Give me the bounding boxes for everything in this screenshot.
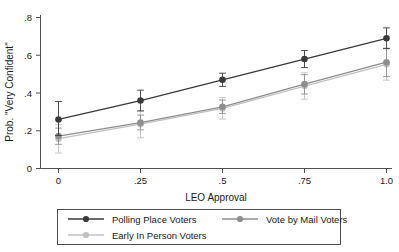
legend-label-early-in-person-voters: Early In Person Voters <box>112 230 207 241</box>
y-tick-marks <box>36 18 41 169</box>
x-tick-label-1: .25 <box>134 175 147 186</box>
y-tick-label-0: 0 <box>27 163 32 174</box>
data-point-vote-by-mail-voters-3 <box>301 81 308 88</box>
legend-entry-polling-place-voters[interactable]: Polling Place Voters <box>68 214 197 225</box>
y-tick-labels: 0 .2 .4 .6 .8 <box>24 12 32 174</box>
data-point-polling-place-voters-4 <box>383 35 390 42</box>
data-point-vote-by-mail-voters-2 <box>219 103 226 110</box>
y-tick-label-3: .6 <box>24 50 32 61</box>
data-point-polling-place-voters-3 <box>301 56 308 63</box>
plot-series-layer <box>55 28 390 153</box>
x-axis-title: LEO Approval <box>185 192 247 203</box>
x-tick-marks <box>59 169 387 174</box>
legend-marker-early-in-person-voters <box>83 232 89 238</box>
data-point-polling-place-voters-2 <box>219 76 226 83</box>
legend-marker-polling-place-voters <box>83 216 89 222</box>
y-tick-label-1: .2 <box>24 125 32 136</box>
legend-label-polling-place-voters: Polling Place Voters <box>112 214 197 225</box>
data-point-vote-by-mail-voters-4 <box>383 59 390 66</box>
y-axis-title: Prob. "Very Confident" <box>4 42 15 142</box>
data-point-vote-by-mail-voters-1 <box>137 119 144 126</box>
y-tick-label-4: .8 <box>24 12 32 23</box>
x-tick-labels: 0 .25 .5 .75 1.0 <box>56 175 393 186</box>
x-tick-label-0: 0 <box>56 175 61 186</box>
data-point-polling-place-voters-1 <box>137 97 144 104</box>
y-tick-label-2: .4 <box>24 88 32 99</box>
figure-container: 0 .2 .4 .6 .8 0 .25 .5 .75 1.0 LEO Appro… <box>0 0 399 252</box>
legend-label-vote-by-mail-voters: Vote by Mail Voters <box>266 214 348 225</box>
legend-marker-vote-by-mail-voters <box>237 216 243 222</box>
data-point-polling-place-voters-0 <box>55 116 62 123</box>
chart-svg: 0 .2 .4 .6 .8 0 .25 .5 .75 1.0 LEO Appro… <box>0 0 399 252</box>
legend-entry-early-in-person-voters[interactable]: Early In Person Voters <box>68 230 207 241</box>
x-tick-label-4: 1.0 <box>380 175 393 186</box>
legend-entry-vote-by-mail-voters[interactable]: Vote by Mail Voters <box>222 214 348 225</box>
x-tick-label-2: .5 <box>219 175 227 186</box>
x-tick-label-3: .75 <box>298 175 311 186</box>
